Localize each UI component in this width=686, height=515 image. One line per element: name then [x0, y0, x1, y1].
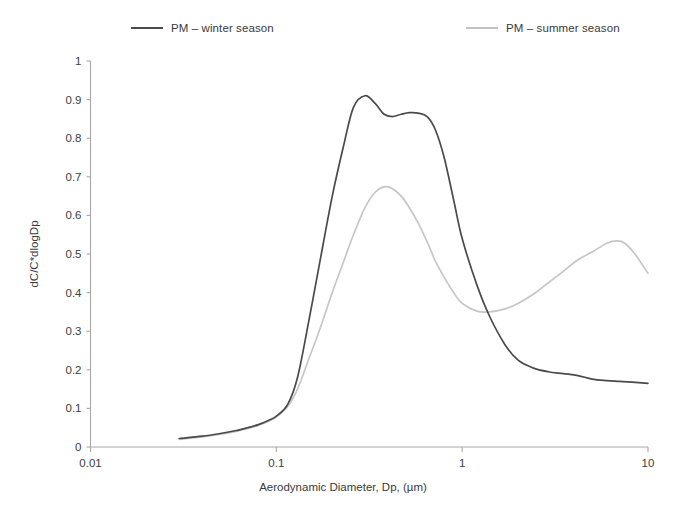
y-tick-label: 0.7 — [66, 171, 82, 183]
y-tick-label: 0 — [75, 441, 81, 453]
y-tick-label: 0.1 — [66, 402, 82, 414]
y-tick-label: 0.2 — [66, 364, 82, 376]
y-tick-label: 0.9 — [66, 94, 82, 106]
x-axis-tick-labels: 0.010.1110 — [79, 457, 654, 469]
y-tick-label: 0.8 — [66, 132, 82, 144]
y-axis-title: dC/C*dlogDp — [28, 220, 40, 287]
y-tick-label: 0.4 — [66, 287, 83, 299]
y-tick-label: 1 — [75, 55, 81, 67]
chart-container: PM – winter season PM – summer season 00… — [0, 0, 686, 515]
plot-svg: 00.10.20.30.40.50.60.70.80.91 0.010.1110… — [0, 0, 686, 515]
x-tick-label: 1 — [459, 457, 465, 469]
x-tick-label: 0.1 — [268, 457, 284, 469]
plot-area: 00.10.20.30.40.50.60.70.80.91 0.010.1110… — [0, 0, 686, 515]
y-tick-label: 0.6 — [66, 209, 82, 221]
y-tick-label: 0.3 — [66, 325, 82, 337]
series-line-winter — [179, 96, 648, 439]
x-tick-label: 0.01 — [79, 457, 101, 469]
x-axis-ticks — [91, 447, 649, 452]
y-axis-tick-labels: 00.10.20.30.40.50.60.70.80.91 — [66, 55, 83, 453]
series-line-summer — [179, 187, 648, 440]
y-tick-label: 0.5 — [66, 248, 82, 260]
x-tick-label: 10 — [642, 457, 655, 469]
x-axis-title: Aerodynamic Diameter, Dp, (µm) — [259, 481, 427, 493]
y-axis-ticks — [87, 61, 91, 447]
